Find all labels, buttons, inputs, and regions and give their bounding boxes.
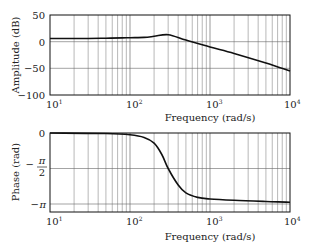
phase-xtick-2: 102 (126, 215, 143, 227)
amplitude-curve (50, 35, 290, 71)
amp-xtick-4: 104 (284, 98, 301, 110)
amp-xtick-2: 102 (126, 98, 143, 110)
svg-text:2: 2 (39, 167, 45, 178)
svg-text:π: π (38, 199, 46, 210)
phase-xticks: 101 102 103 104 (46, 215, 301, 227)
amp-xlabel: Frequency (rad/s) (165, 112, 256, 123)
phase-ytick-0: 0 (39, 128, 45, 139)
amplitude-grid (50, 15, 290, 95)
svg-text:π: π (38, 155, 46, 166)
phase-ytick-neg-half-pi: − π 2 (26, 155, 47, 178)
amp-ylabel: Amplitude (dB) (10, 16, 21, 94)
amp-ytick-neg50: −50 (24, 63, 45, 74)
amp-ytick-0: 0 (39, 37, 45, 48)
phase-ytick-neg-pi: − π (31, 199, 47, 210)
svg-text:−: − (31, 199, 39, 210)
amplitude-axes (50, 15, 290, 95)
amp-xtick-1: 101 (46, 98, 63, 110)
svg-text:−: − (26, 159, 34, 170)
bode-plot: 50 0 −50 −100 101 102 103 104 Frequency … (0, 0, 310, 251)
amp-xticks: 101 102 103 104 (46, 98, 301, 110)
phase-xtick-4: 104 (284, 215, 301, 227)
phase-xtick-3: 103 (206, 215, 223, 227)
amp-xtick-3: 103 (206, 98, 223, 110)
phase-ylabel: Phase (rad) (10, 143, 21, 201)
phase-xtick-1: 101 (46, 215, 63, 227)
amp-ytick-50: 50 (32, 10, 45, 21)
phase-xlabel: Frequency (rad/s) (165, 231, 256, 242)
amp-ytick-neg100: −100 (18, 90, 45, 101)
phase-curve (50, 133, 290, 202)
